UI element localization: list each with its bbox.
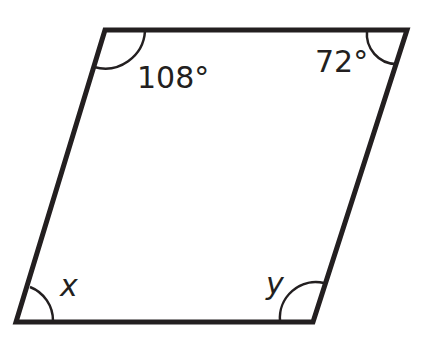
angle-arc-bottom-left: [30, 287, 53, 321]
angle-label-y: y: [265, 266, 285, 301]
angle-label-x: x: [59, 268, 78, 303]
angle-label-top-right: 72°: [315, 44, 368, 79]
angle-label-top-left: 108°: [137, 60, 209, 95]
parallelogram-diagram: 108° 72° x y: [0, 0, 433, 354]
angle-arc-top-right: [367, 31, 396, 64]
